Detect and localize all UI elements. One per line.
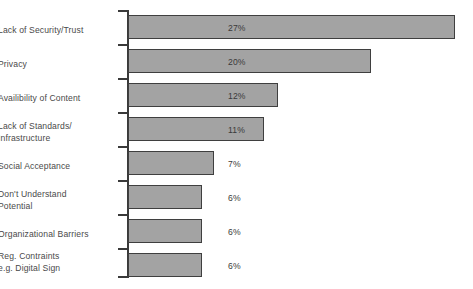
- category-label: Lack of Security/Trust: [0, 25, 118, 37]
- bar-value-label: 11%: [228, 125, 245, 135]
- axis-tick: [118, 180, 128, 182]
- category-label: Organizational Barriers: [0, 229, 118, 241]
- axis-tick: [118, 146, 128, 148]
- bar: [128, 185, 202, 209]
- bar: [128, 151, 214, 175]
- bar-value-label: 6%: [228, 193, 241, 203]
- bar: [128, 83, 278, 107]
- axis-tick: [118, 214, 128, 216]
- bar-value-label: 7%: [228, 159, 241, 169]
- axis-tick: [118, 276, 128, 278]
- category-label: Privacy: [0, 59, 118, 71]
- bar-value-label: 20%: [228, 57, 246, 67]
- bar: [128, 15, 455, 39]
- horizontal-bar-chart: Lack of Security/Trust 27% Privacy 20% A…: [0, 0, 473, 289]
- category-label: Reg. Contraints e.g. Digital Sign: [0, 251, 118, 274]
- bar: [128, 49, 371, 73]
- axis-tick: [118, 78, 128, 80]
- bar: [128, 219, 202, 243]
- bar-value-label: 12%: [228, 91, 246, 101]
- category-label: Availibility of Content: [0, 93, 118, 105]
- axis-tick: [118, 112, 128, 114]
- bar-value-label: 6%: [228, 261, 241, 271]
- category-label: Don't Understand Potential: [0, 189, 118, 212]
- axis-tick: [118, 44, 128, 46]
- axis-tick: [118, 10, 128, 12]
- bar-value-label: 27%: [228, 23, 246, 33]
- category-label: Social Acceptance: [0, 161, 118, 173]
- axis-tick: [118, 248, 128, 250]
- bar-value-label: 6%: [228, 227, 241, 237]
- bar: [128, 253, 202, 277]
- category-label: Lack of Standards/ Infrastructure: [0, 121, 118, 144]
